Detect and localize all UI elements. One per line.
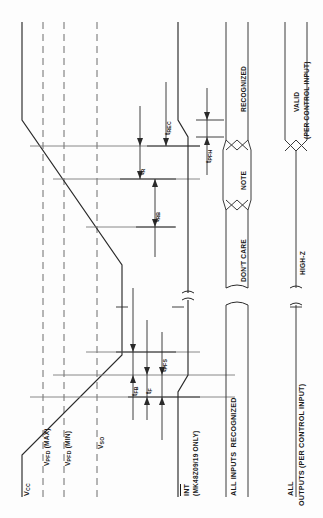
dimension-tpfs — [159, 332, 165, 440]
state-label-dont-care: DON'T CARE — [240, 239, 247, 282]
signal-label-vcc: VCC — [22, 483, 31, 496]
outputs-break-mark-2 — [290, 303, 302, 305]
signal-note-all-outputs: OUTPUTS (PER CONTROL INPUT) — [297, 384, 306, 506]
vcc-waveform — [22, 22, 122, 497]
inputs-break-mark-2 — [226, 302, 248, 305]
int-waveform — [178, 22, 194, 497]
signal-label-all-outputs: ALL — [286, 481, 295, 496]
timing-label-tpfh: tPFH — [205, 150, 213, 163]
state-label-high-z: HIGH-Z — [299, 251, 306, 275]
level-label-vpfd-max: VPFD (MAX) — [43, 428, 51, 466]
state-label-valid: VALID — [293, 92, 300, 112]
timing-label-tr: tR — [138, 169, 146, 175]
timing-label-trb: tRB — [153, 212, 161, 222]
timing-label-tf: tF — [145, 388, 153, 394]
dimension-tr — [120, 106, 176, 179]
state-label-valid-note: (PER CONTROL INPUT) — [303, 61, 310, 139]
level-label-vso: VSO — [97, 436, 105, 449]
signal-label-int: INT — [181, 484, 190, 496]
inputs-break-mark — [226, 285, 248, 288]
timing-label-tfb: tFB — [131, 386, 139, 396]
timing-label-tpfs: tPFS — [160, 359, 168, 372]
timing-diagram-page: VCC VPFD (MAX) VPFD (MIN) VSO tREC tR tR… — [0, 0, 323, 518]
state-label-note: NOTE — [240, 171, 247, 190]
crossing-reference-lines-falling — [30, 146, 200, 227]
signal-label-all-inputs: ALL INPUTS RECOGNIZED — [229, 397, 238, 496]
state-label-recognized: RECOGNIZED — [240, 66, 247, 112]
int-break-mark-2 — [182, 298, 194, 300]
timing-label-trec: tREC — [164, 121, 172, 135]
dimension-trec — [147, 82, 200, 146]
level-label-vpfd-min: VPFD (MIN) — [64, 431, 72, 466]
signal-note-int: (MK48Z09/19 ONLY) — [192, 431, 199, 496]
